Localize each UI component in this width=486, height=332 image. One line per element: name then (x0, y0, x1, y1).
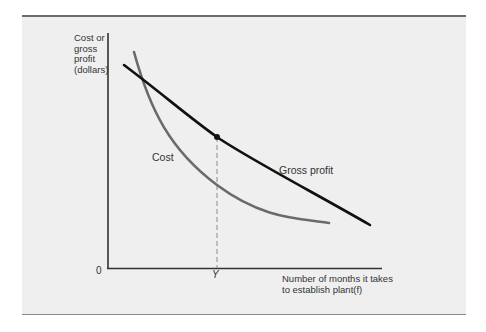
cost-curve (134, 52, 329, 223)
y-label-line: Cost or (74, 33, 114, 44)
y-label-line: profit (74, 54, 114, 65)
x-tick-y: Y (212, 270, 219, 281)
y-axis-label: Cost or gross profit (dollars) (74, 33, 114, 75)
x-axis-label: Number of months it takes to establish p… (282, 274, 452, 295)
y-label-line: (dollars) (74, 65, 114, 76)
optimum-point (214, 134, 220, 140)
x-label-line: Number of months it takes (282, 274, 452, 285)
gross-profit-curve (124, 65, 370, 225)
origin-label: 0 (96, 266, 102, 277)
cost-series-label: Cost (152, 152, 174, 163)
x-label-line: to establish plant(f) (282, 285, 452, 296)
gross-profit-series-label: Gross profit (279, 165, 333, 176)
